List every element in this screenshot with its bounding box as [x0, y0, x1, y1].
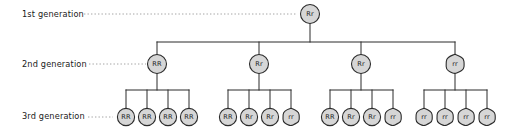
node-gen3-15-rr-label: rr [484, 113, 490, 121]
node-gen3-2-rr-label: RR [163, 113, 173, 121]
node-gen3-4-rr-label: RR [223, 113, 233, 121]
generation-label-gen3: 3rd generation [22, 111, 85, 121]
node-gen3-5-rr-label: Rr [245, 113, 253, 121]
node-gen2-3-rr-label: rr [452, 60, 458, 68]
node-gen3-8-rr-label: RR [325, 113, 335, 121]
node-gen3-7-rr-label: rr [288, 113, 294, 121]
node-gen3-9-rr-label: Rr [347, 113, 355, 121]
node-gen1-0-rr-label: Rr [306, 10, 314, 18]
generation-label-gen2: 2nd generation [22, 59, 87, 69]
node-gen3-11-rr-label: rr [390, 113, 396, 121]
node-gen3-1-rr-label: RR [142, 113, 152, 121]
pedigree-diagram: 1st generation2nd generation3rd generati… [0, 0, 515, 137]
node-gen3-10-rr-label: Rr [368, 113, 376, 121]
node-gen3-3-rr-label: RR [184, 113, 194, 121]
node-gen3-6-rr-label: Rr [266, 113, 274, 121]
genotype-nodes-group: RrRRRrRrrrRRRRRRRRRRRrRrrrRRRrRrrrrrrrrr… [117, 5, 495, 126]
node-gen2-2-rr-label: Rr [357, 60, 365, 68]
pedigree-canvas: 1st generation2nd generation3rd generati… [0, 0, 515, 137]
node-gen3-13-rr-label: rr [442, 113, 448, 121]
node-gen2-0-rr-label: RR [152, 60, 162, 68]
node-gen3-12-rr-label: rr [421, 113, 427, 121]
node-gen3-14-rr-label: rr [463, 113, 469, 121]
node-gen3-0-rr-label: RR [121, 113, 131, 121]
generation-label-gen1: 1st generation [22, 9, 84, 19]
generation-labels-group: 1st generation2nd generation3rd generati… [22, 9, 87, 121]
node-gen2-1-rr-label: Rr [255, 60, 263, 68]
connectors-group [126, 24, 487, 109]
